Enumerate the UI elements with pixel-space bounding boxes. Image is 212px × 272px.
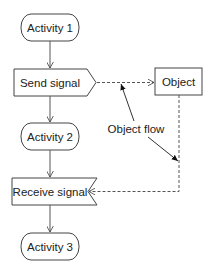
receive-signal-node[interactable]: Receive signal xyxy=(12,178,97,205)
object-label: Object xyxy=(162,76,196,88)
activity-2-node[interactable]: Activity 2 xyxy=(21,123,79,150)
object-flow-annotation: Object flow xyxy=(108,123,166,135)
object-node[interactable]: Object xyxy=(155,68,202,95)
object-flow-dashed-arrow xyxy=(89,95,179,192)
activity-1-node[interactable]: Activity 1 xyxy=(21,14,79,41)
activity-1-label: Activity 1 xyxy=(27,22,73,34)
annotation-pointer-arrow xyxy=(121,84,134,121)
activity-3-node[interactable]: Activity 3 xyxy=(21,233,79,260)
receive-signal-label: Receive signal xyxy=(13,186,88,198)
activity-diagram: Activity 1 Send signal Activity 2 Receiv… xyxy=(0,0,212,272)
send-signal-node[interactable]: Send signal xyxy=(14,69,96,96)
send-signal-label: Send signal xyxy=(20,77,80,89)
activity-3-label: Activity 3 xyxy=(27,241,73,253)
activity-2-label: Activity 2 xyxy=(27,131,73,143)
annotation-pointer-arrow xyxy=(148,137,178,161)
